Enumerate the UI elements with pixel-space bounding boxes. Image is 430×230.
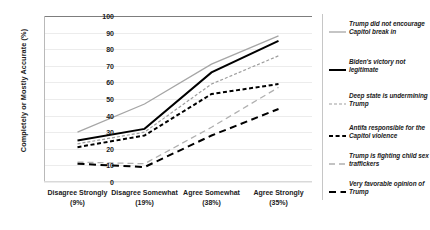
legend-item-4[interactable]: Trump is fighting child sex traffickers xyxy=(329,152,430,167)
x-axis-labels: Disagree Strongly(9%)Disagree Somewhat(1… xyxy=(44,188,312,218)
y-tick-label-0: 0 xyxy=(84,179,114,186)
legend-swatch-0 xyxy=(329,22,346,30)
y-tick-label-60: 60 xyxy=(84,79,114,86)
y-tick-label-30: 30 xyxy=(84,129,114,136)
legend-label-0: Trump did not encourage Capitol break in xyxy=(349,20,430,35)
legend-item-5[interactable]: Very favorable opinion of Trump xyxy=(329,180,430,195)
legend-item-1[interactable]: Biden's victory not legitimate xyxy=(329,58,430,73)
y-tick-label-50: 50 xyxy=(84,96,114,103)
y-tick-label-20: 20 xyxy=(84,145,114,152)
line-chart: Completely or Mostly Accurate (%) Disagr… xyxy=(0,0,430,230)
legend-label-1: Biden's victory not legitimate xyxy=(349,58,430,73)
legend-item-0[interactable]: Trump did not encourage Capitol break in xyxy=(329,20,430,35)
legend-swatch-4 xyxy=(329,154,346,162)
y-axis-title: Completely or Mostly Accurate (%) xyxy=(19,16,28,166)
legend-swatch-3 xyxy=(329,126,346,134)
legend-label-4: Trump is fighting child sex traffickers xyxy=(349,152,430,167)
y-tick-label-80: 80 xyxy=(84,46,114,53)
legend: Trump did not encourage Capitol break in… xyxy=(322,14,430,200)
y-tick-label-90: 90 xyxy=(84,29,114,36)
y-tick-label-40: 40 xyxy=(84,112,114,119)
legend-item-2[interactable]: Deep state is undermining Trump xyxy=(329,92,430,107)
series-line-1 xyxy=(78,41,279,141)
x-tick-category: Agree Strongly xyxy=(253,189,303,196)
legend-label-3: Antifa responsible for the Capitol viole… xyxy=(349,124,430,139)
legend-item-3[interactable]: Antifa responsible for the Capitol viole… xyxy=(329,124,430,139)
legend-swatch-2 xyxy=(329,94,346,102)
legend-swatch-1 xyxy=(329,60,346,68)
legend-swatch-5 xyxy=(329,182,346,190)
y-tick-label-70: 70 xyxy=(84,62,114,69)
legend-label-2: Deep state is undermining Trump xyxy=(349,92,430,107)
y-tick-label-100: 100 xyxy=(84,13,114,20)
x-tick-percent: (35%) xyxy=(227,198,331,208)
x-tick-label-3: Agree Strongly(35%) xyxy=(227,188,331,207)
legend-label-5: Very favorable opinion of Trump xyxy=(349,180,430,195)
y-tick-label-10: 10 xyxy=(84,162,114,169)
